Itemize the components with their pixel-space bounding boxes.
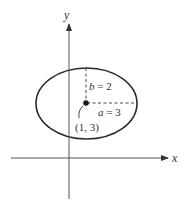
ellipse-diagram: x y b = 2 a = 3 (1, 3) xyxy=(0,0,189,209)
x-axis-label: x xyxy=(171,151,178,165)
center-pointer xyxy=(79,106,83,118)
a-label: a = 3 xyxy=(98,106,121,118)
b-label: b = 2 xyxy=(89,80,112,92)
center-label: (1, 3) xyxy=(75,121,99,134)
y-axis-label: y xyxy=(63,8,70,22)
center-point xyxy=(83,100,89,106)
